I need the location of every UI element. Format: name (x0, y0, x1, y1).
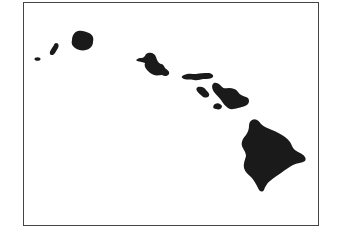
island-kauai (72, 31, 94, 51)
island-niihau (50, 43, 59, 55)
island-kahoolawe (213, 103, 222, 109)
island-oahu (136, 53, 169, 76)
island-molokai (182, 73, 213, 80)
island-hawaii (242, 119, 306, 191)
island-kaula (35, 57, 41, 61)
island-lanai (196, 87, 209, 98)
hawaii-islands-map (0, 0, 342, 237)
